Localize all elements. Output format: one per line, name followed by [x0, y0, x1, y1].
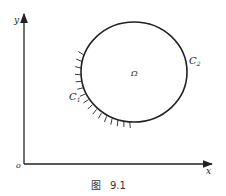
figure-canvas: y x o Ω C1 C2 图 9.1 — [0, 0, 226, 196]
region-label: Ω — [130, 69, 138, 78]
figure-caption-number: 9.1 — [110, 180, 126, 191]
origin-label: o — [16, 161, 21, 170]
figure-caption-prefix: 图 — [91, 180, 101, 191]
x-axis-label: x — [206, 166, 211, 176]
c2-label: C2 — [189, 55, 201, 67]
c1-hatching — [75, 52, 130, 128]
y-axis-label: y — [13, 15, 20, 25]
c1-label: C1 — [69, 91, 80, 103]
